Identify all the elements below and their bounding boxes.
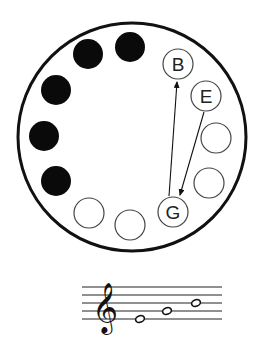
node-g-label: G bbox=[166, 202, 181, 223]
empty-position-6 bbox=[74, 198, 104, 228]
filled-position-5 bbox=[41, 166, 71, 196]
note-e4 bbox=[135, 314, 146, 323]
circle-diagram: G E B 𝄞 bbox=[0, 0, 254, 348]
note-g4 bbox=[162, 306, 173, 315]
node-e: E bbox=[191, 81, 221, 111]
arrow-g-to-b bbox=[169, 82, 177, 196]
node-b-label: B bbox=[172, 54, 185, 75]
empty-position-10 bbox=[201, 123, 231, 153]
filled-position-4 bbox=[29, 121, 59, 151]
filled-position-2 bbox=[73, 39, 103, 69]
empty-position-7 bbox=[115, 210, 145, 240]
node-g: G bbox=[158, 197, 188, 227]
music-staff: 𝄞 bbox=[82, 281, 222, 335]
empty-position-9 bbox=[194, 168, 224, 198]
node-b: B bbox=[163, 49, 193, 79]
treble-clef-icon: 𝄞 bbox=[92, 281, 118, 335]
node-e-label: E bbox=[200, 86, 213, 107]
filled-position-3 bbox=[41, 75, 71, 105]
note-b4 bbox=[191, 298, 202, 307]
filled-position-1 bbox=[115, 32, 145, 62]
